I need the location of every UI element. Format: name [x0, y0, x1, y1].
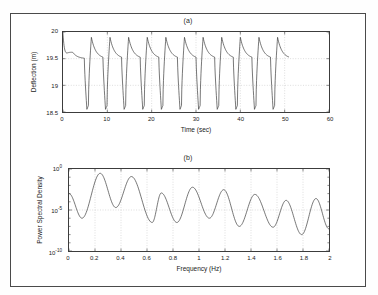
- subplot-a-xtick-2: 20: [148, 116, 155, 122]
- subplot-b-xtick-9: 1.8: [300, 255, 308, 261]
- subplot-b-xtick-3: 0.6: [142, 255, 150, 261]
- subplot-b-xtick-8: 1.6: [273, 255, 281, 261]
- subplot-b-xlabel: Frequency (Hz): [177, 265, 222, 272]
- subplot-a-xlabel: Time (sec): [181, 126, 211, 133]
- deflection-curve: [63, 35, 289, 110]
- subplot-b-xtick-0: 0: [66, 255, 69, 261]
- subplot-a-xtick-3: 30: [193, 116, 200, 122]
- subplot-a-xtick-1: 10: [103, 116, 110, 122]
- subplot-b-xtick-6: 1.2: [221, 255, 229, 261]
- subplot-b-title: (b): [10, 154, 366, 161]
- subplot-b-gridlines: [69, 169, 329, 251]
- subplot-a-xtick-6: 60: [327, 116, 334, 122]
- subplot-b-xtick-5: 1: [197, 255, 200, 261]
- subplot-a-ytick-3: 20: [34, 28, 58, 34]
- subplot-a-ytick-1: 19: [34, 83, 58, 89]
- subplot-a-gridlines: [63, 32, 329, 112]
- subplot-a-ytick-0: 18.5: [34, 110, 58, 116]
- subplot-a-plot-area: [63, 32, 329, 112]
- subplot-b-xtick-1: 0.2: [90, 255, 98, 261]
- subplot-b-plot-area: [69, 169, 329, 251]
- subplot-b-ytick-0: 100: [40, 164, 62, 172]
- subplot-a: (a) 18.5 19 19.5 20 0 10 20 30 40 50 60 …: [10, 13, 366, 148]
- subplot-b: (b) 100 10-5 10-10 0 0.2 0.4 0.6 0.8 1 1…: [10, 148, 366, 287]
- subplot-b-ylabel: Power Spectral Density: [36, 166, 43, 254]
- subplot-b-xtick-7: 1.4: [247, 255, 255, 261]
- subplot-b-xtick-2: 0.4: [116, 255, 124, 261]
- subplot-b-xtick-10: 2: [328, 255, 331, 261]
- subplot-a-ticks: [63, 32, 329, 112]
- subplot-a-xtick-0: 0: [60, 116, 63, 122]
- figure-root: (a) 18.5 19 19.5 20 0 10 20 30 40 50 60 …: [0, 0, 378, 295]
- subplot-b-ytick-2: 10-10: [40, 248, 62, 256]
- subplot-a-xtick-5: 50: [282, 116, 289, 122]
- subplot-a-ytick-2: 19.5: [34, 55, 58, 61]
- subplot-a-axes: [62, 31, 330, 113]
- subplot-b-ytick-1: 10-5: [40, 206, 62, 214]
- subplot-a-ylabel: Deflection (m): [30, 32, 37, 112]
- subplot-a-title: (a): [10, 17, 366, 24]
- subplot-b-axes: [68, 168, 330, 252]
- subplot-a-xtick-4: 40: [237, 116, 244, 122]
- subplot-b-xtick-4: 0.8: [169, 255, 177, 261]
